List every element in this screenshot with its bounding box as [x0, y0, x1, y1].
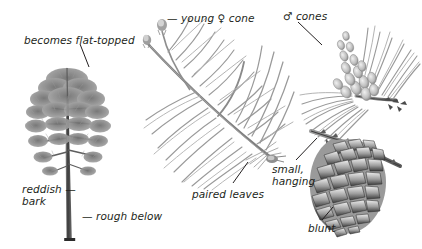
label-paired-leaves: paired leaves	[192, 188, 264, 200]
label-reddish-bark: reddish — bark	[22, 183, 76, 207]
specimen-mature-cone	[310, 129, 400, 237]
needle-fascicle-node	[266, 155, 286, 163]
illustration-plate: becomes flat-topped — young ♀ cone ♂ con…	[0, 0, 422, 249]
specimen-male-cone-cluster	[300, 26, 420, 143]
label-rough-below: — rough below	[82, 210, 162, 222]
leader-male-cones	[298, 22, 322, 45]
label-young-female-cone: — young ♀ cone	[167, 12, 255, 24]
label-blunt: blunt	[308, 222, 336, 234]
leader-small-hanging	[296, 138, 317, 160]
young-female-cone-detail	[143, 19, 190, 90]
label-becomes-flat-topped: becomes flat-topped	[24, 34, 135, 46]
label-small-hanging: small, hanging	[272, 163, 315, 187]
label-male-cones: ♂ cones	[283, 10, 327, 22]
leader-flat-topped	[80, 44, 89, 67]
